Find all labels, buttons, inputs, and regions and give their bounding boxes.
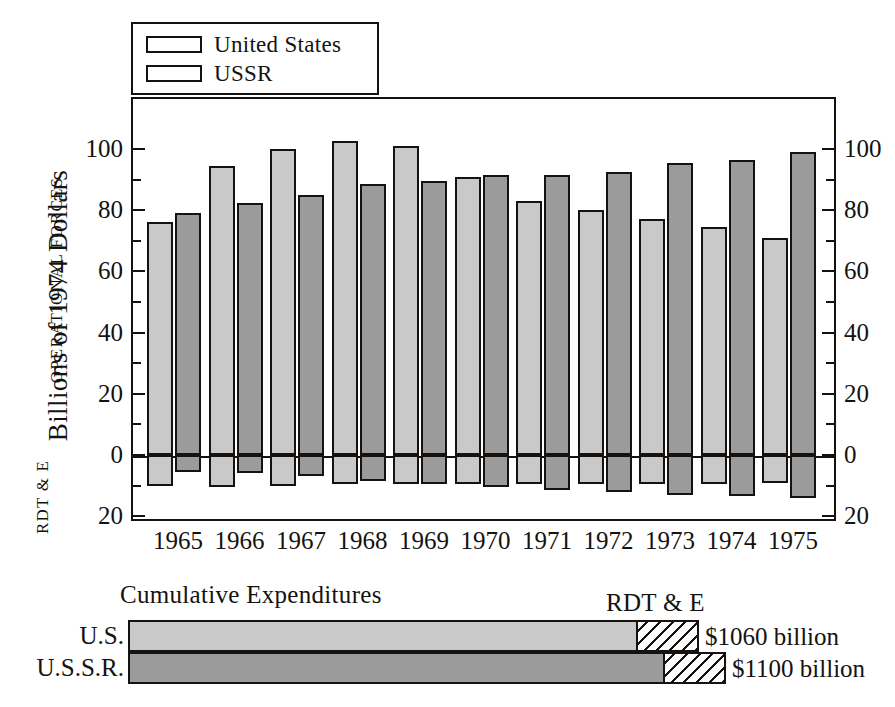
bar-ussr-rdte-1966 xyxy=(237,455,263,473)
chart-legend: United States USSR xyxy=(131,22,379,95)
cumulative-row-label-1: U.S.S.R. xyxy=(0,655,124,680)
legend-swatch-united-states xyxy=(146,36,202,53)
legend-item-ussr: USSR xyxy=(146,60,273,86)
y-axis-tick-label-left-2: 60 xyxy=(63,258,123,283)
bar-us-operational-1969 xyxy=(393,146,419,455)
bar-ussr-rdte-1967 xyxy=(298,455,324,476)
cumulative-rdte-annotation: RDT & E xyxy=(606,589,705,617)
bar-ussr-operational-1974 xyxy=(729,160,755,455)
bar-us-operational-1967 xyxy=(270,149,296,455)
axis-tick-left-10 xyxy=(132,423,141,425)
y-axis-tick-label-left-5: 0 xyxy=(63,442,123,467)
bar-ussr-rdte-1965 xyxy=(175,455,201,472)
y-axis-tick-label-right-2: 60 xyxy=(844,258,895,283)
cumulative-rdte-segment-0 xyxy=(636,620,699,652)
axis-tick-right-70 xyxy=(826,240,835,242)
legend-item-united-states: United States xyxy=(146,31,341,57)
bar-ussr-operational-1966 xyxy=(237,203,263,455)
bar-us-operational-1973 xyxy=(639,219,665,455)
bar-ussr-operational-1970 xyxy=(483,175,509,455)
cumulative-rdte-segment-1 xyxy=(663,652,726,684)
x-axis-label-1970: 1970 xyxy=(456,528,516,553)
axis-tick-right-40 xyxy=(822,332,835,334)
axis-tick-left-20 xyxy=(132,515,145,517)
axis-tick-left-90 xyxy=(132,179,141,181)
axis-tick-left-10 xyxy=(132,485,141,487)
y-axis-tick-label-left-1: 80 xyxy=(63,197,123,222)
axis-tick-right-50 xyxy=(826,301,835,303)
axis-tick-left-100 xyxy=(132,148,145,150)
axis-tick-left-20 xyxy=(132,393,145,395)
bar-us-rdte-1967 xyxy=(270,455,296,486)
y-axis-tick-label-right-4: 20 xyxy=(844,381,895,406)
bar-ussr-operational-1971 xyxy=(544,175,570,455)
cumulative-value-label-0: $1060 billion xyxy=(705,624,839,649)
x-axis-label-1965: 1965 xyxy=(148,528,208,553)
axis-tick-right-10 xyxy=(826,423,835,425)
bar-us-operational-1966 xyxy=(209,166,235,455)
bar-us-rdte-1966 xyxy=(209,455,235,487)
bar-us-rdte-1975 xyxy=(762,455,788,483)
bar-ussr-operational-1973 xyxy=(667,163,693,455)
x-axis-label-1966: 1966 xyxy=(210,528,270,553)
bar-us-operational-1974 xyxy=(701,227,727,455)
y-axis-tick-label-right-6: 20 xyxy=(844,503,895,528)
axis-tick-right-20 xyxy=(822,393,835,395)
bar-us-rdte-1972 xyxy=(578,455,604,484)
cumulative-expenditures-title: Cumulative Expenditures xyxy=(120,581,382,609)
axis-tick-left-70 xyxy=(132,240,141,242)
bar-ussr-operational-1968 xyxy=(360,184,386,455)
axis-tick-right-100 xyxy=(822,148,835,150)
axis-tick-left-80 xyxy=(132,209,145,211)
legend-label-ussr: USSR xyxy=(214,62,273,85)
bar-ussr-operational-1972 xyxy=(606,172,632,455)
x-axis-label-1973: 1973 xyxy=(640,528,700,553)
cumulative-value-label-1: $1100 billion xyxy=(732,656,865,681)
y-axis-tick-label-right-3: 40 xyxy=(844,320,895,345)
bar-ussr-operational-1975 xyxy=(790,152,816,455)
axis-tick-right-90 xyxy=(826,179,835,181)
x-axis-label-1971: 1971 xyxy=(517,528,577,553)
bar-ussr-rdte-1969 xyxy=(421,455,447,484)
cumulative-operational-segment-1 xyxy=(128,652,665,684)
x-axis-label-1975: 1975 xyxy=(763,528,823,553)
bar-ussr-rdte-1972 xyxy=(606,455,632,492)
bar-us-operational-1972 xyxy=(578,210,604,455)
x-axis-label-1972: 1972 xyxy=(579,528,639,553)
legend-swatch-ussr xyxy=(146,65,202,82)
bar-us-rdte-1974 xyxy=(701,455,727,484)
y-axis-tick-label-right-5: 0 xyxy=(844,442,895,467)
x-axis-label-1974: 1974 xyxy=(702,528,762,553)
chart-figure: United States USSR Billions of 1974 Doll… xyxy=(0,0,895,707)
axis-tick-right-20 xyxy=(822,515,835,517)
y-axis-section-rdt-and-e: RDT & E xyxy=(33,442,53,552)
axis-tick-right-60 xyxy=(822,270,835,272)
bar-us-rdte-1971 xyxy=(516,455,542,484)
axis-tick-right-80 xyxy=(822,209,835,211)
legend-label-united-states: United States xyxy=(214,33,341,56)
bar-ussr-rdte-1971 xyxy=(544,455,570,490)
cumulative-row-label-0: U.S. xyxy=(0,623,124,648)
axis-tick-left-0 xyxy=(132,454,145,456)
axis-tick-left-30 xyxy=(132,362,141,364)
axis-tick-right-0 xyxy=(822,454,835,456)
x-axis-label-1967: 1967 xyxy=(271,528,331,553)
bar-ussr-operational-1967 xyxy=(298,195,324,455)
y-axis-tick-label-right-0: 100 xyxy=(844,136,895,161)
bar-ussr-rdte-1975 xyxy=(790,455,816,498)
y-axis-tick-label-left-0: 100 xyxy=(63,136,123,161)
y-axis-tick-label-left-4: 20 xyxy=(63,381,123,406)
bar-ussr-operational-1969 xyxy=(421,181,447,455)
bar-us-rdte-1969 xyxy=(393,455,419,484)
bar-us-rdte-1973 xyxy=(639,455,665,484)
x-axis-label-1968: 1968 xyxy=(333,528,393,553)
bar-us-operational-1970 xyxy=(455,177,481,455)
bar-us-operational-1975 xyxy=(762,238,788,455)
bar-us-operational-1968 xyxy=(332,141,358,455)
y-axis-tick-label-left-6: 20 xyxy=(63,503,123,528)
bar-ussr-rdte-1973 xyxy=(667,455,693,495)
bar-us-operational-1965 xyxy=(147,222,173,455)
axis-tick-left-40 xyxy=(132,332,145,334)
axis-tick-left-50 xyxy=(132,301,141,303)
bar-ussr-rdte-1974 xyxy=(729,455,755,496)
